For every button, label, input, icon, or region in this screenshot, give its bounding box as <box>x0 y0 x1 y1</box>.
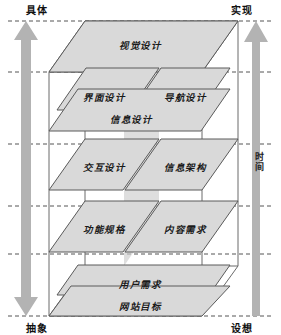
axis-label-top-left: 具体 <box>26 2 47 17</box>
axis-label-bottom-left: 抽象 <box>26 320 47 335</box>
plane-functional-content <box>49 201 238 252</box>
plane-label-information-design: 信息设计 <box>110 112 152 126</box>
plane-label-interaction-design: 交互设计 <box>83 160 125 174</box>
plane-label-site-objectives: 网站目标 <box>119 299 161 313</box>
axis-label-time: 时间 <box>252 152 264 172</box>
plane-label-navigation-design: 导航设计 <box>164 90 206 104</box>
axis-label-top-right: 实现 <box>231 2 252 17</box>
plane-interaction-architecture <box>49 139 238 190</box>
plane-label-content-requirements: 内容需求 <box>164 222 206 236</box>
axis-label-bottom-right: 设想 <box>231 320 252 335</box>
diagram-canvas: .pl { fill:#d9d9d9; stroke:#5a5a5a; stro… <box>0 0 281 335</box>
plane-label-user-needs: 用户需求 <box>119 277 161 291</box>
plane-label-interface-design: 界面设计 <box>83 90 125 104</box>
plane-label-visual-design: 视觉设计 <box>119 38 161 52</box>
abstraction-axis-arrow <box>14 21 38 316</box>
plane-label-functional-spec: 功能规格 <box>83 222 125 236</box>
plane-label-information-arch: 信息架构 <box>164 160 206 174</box>
